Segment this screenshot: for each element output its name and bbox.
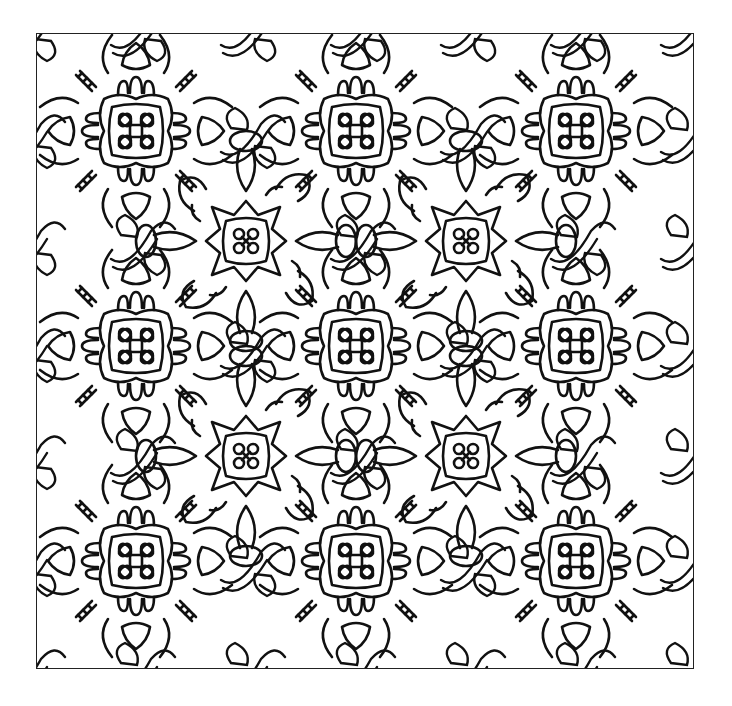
filler-curl-motif <box>441 34 505 61</box>
filler-curl-motif <box>661 34 694 61</box>
filler-curl-motif <box>37 215 65 275</box>
flower-medallion-motif <box>40 35 232 227</box>
filler-curl-motif <box>221 643 285 669</box>
filler-curl-motif <box>37 108 65 168</box>
filler-curl-motif <box>37 429 65 489</box>
filler-curl-motif <box>661 536 694 596</box>
filler-curl-motif <box>661 643 694 669</box>
flower-medallion-motif <box>480 465 672 657</box>
flower-medallion-motif <box>40 250 232 442</box>
filler-curl-motif <box>37 34 65 61</box>
flower-medallion-motif <box>260 250 452 442</box>
filler-curl-motif <box>661 215 694 275</box>
coloring-pattern-frame <box>36 33 694 669</box>
flower-medallion-motif <box>260 35 452 227</box>
filler-curl-motif <box>221 34 285 61</box>
filler-curl-motif <box>441 643 505 669</box>
flower-medallion-motif <box>480 250 672 442</box>
flower-medallion-motif <box>40 465 232 657</box>
mandala-pattern-artwork <box>37 34 694 669</box>
filler-curl-motif <box>661 429 694 489</box>
flower-medallion-motif <box>480 35 672 227</box>
filler-curl-motif <box>37 643 65 669</box>
filler-curl-motif <box>37 322 65 382</box>
flower-medallion-motif <box>260 465 452 657</box>
